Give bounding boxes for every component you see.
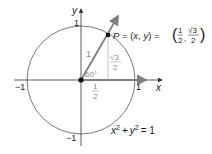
- vertical-leg-denominator: 2: [113, 63, 118, 72]
- vertical-leg-numerator: √3: [110, 53, 119, 62]
- horizontal-leg-denominator: 2: [93, 92, 98, 101]
- equation-plus: +: [122, 125, 128, 136]
- equation-exp2: 2: [135, 124, 139, 131]
- point-p-y-denominator: 2: [191, 36, 196, 45]
- point-p-prefix: P = (x, y) =: [113, 30, 160, 41]
- point-p-label: P = (x, y) = ( 1 2 , √3 2 ): [113, 26, 205, 45]
- point-p-close-paren: ): [200, 26, 205, 43]
- point-p-x-numerator: 1: [178, 26, 183, 35]
- equation-rhs: = 1: [141, 125, 156, 136]
- horizontal-leg-numerator: 1: [93, 82, 98, 91]
- vertical-leg-label: √3 2: [110, 53, 121, 72]
- point-p-x-denominator: 2: [178, 36, 183, 45]
- x-tick-neg1: −1: [15, 82, 25, 92]
- circle-equation: x2+y2= 1: [110, 124, 155, 136]
- radius-label: 1: [86, 49, 91, 59]
- origin-point: [78, 77, 83, 82]
- x-axis-label: x: [155, 82, 162, 93]
- point-p-comma: ,: [184, 34, 186, 43]
- y-axis-label: y: [71, 5, 78, 16]
- horizontal-leg-label: 1 2: [92, 82, 99, 101]
- point-p-y-numerator: √3: [188, 26, 197, 35]
- equation-exp1: 2: [116, 124, 120, 131]
- x-tick-1: 1: [136, 82, 141, 92]
- angle-label: 60°: [85, 70, 97, 79]
- y-tick-neg1: −1: [66, 133, 76, 143]
- unit-circle-diagram: y x 1 −1 1 −1 1 60° √3 2 1 2 P = (x, y) …: [0, 0, 212, 154]
- y-tick-1: 1: [74, 18, 79, 28]
- point-p: [106, 33, 110, 37]
